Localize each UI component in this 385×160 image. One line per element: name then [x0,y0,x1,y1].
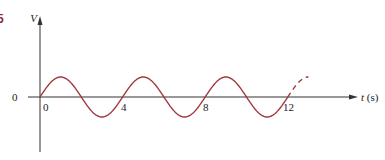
sine-graph: V 0 0 4 8 12 t (s) [0,0,385,160]
x-axis-arrow-icon [349,95,358,100]
sine-curve-extension [288,77,309,97]
x-tick-4: 4 [121,101,127,113]
x-tick-12: 12 [283,101,294,113]
y-axis-label: V [30,12,38,24]
x-axis-label: t (s) [361,91,379,104]
x-tick-8: 8 [203,101,209,113]
y-origin-label: 0 [12,91,18,103]
x-tick-0: 0 [43,101,49,113]
y-axis-arrow-icon [38,16,43,25]
x-axis-label-unit: (s) [364,91,379,104]
